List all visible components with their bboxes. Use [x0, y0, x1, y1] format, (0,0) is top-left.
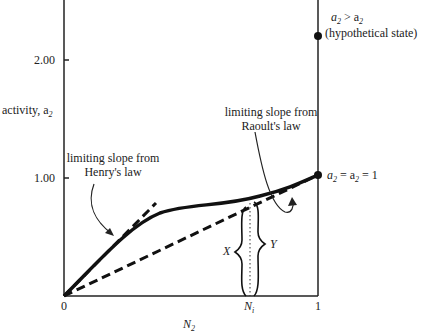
tick-label-ni-sub: i: [252, 306, 254, 315]
standard-state-point: [314, 171, 322, 179]
henry-arrow: [91, 184, 112, 234]
raoult-arrow: [255, 132, 293, 212]
brace-y-label: Y: [270, 237, 277, 251]
raoult-annotation: limiting slope from Raoult's law: [222, 105, 320, 133]
henry-annotation-line1: limiting slope from: [64, 151, 162, 165]
henry-annotation-line2: Henry's law: [64, 165, 162, 179]
y-axis-label-sub: 2: [49, 110, 53, 119]
brace-y: [254, 202, 265, 296]
raoult-annotation-line2: Raoult's law: [222, 119, 320, 133]
hypothetical-state-point: [314, 32, 322, 40]
tick-label-y1: 1.00: [34, 171, 55, 185]
std-eq: = a: [337, 168, 355, 182]
x-axis-label-sub: 2: [191, 324, 195, 331]
tick-label-ni: Ni: [244, 299, 254, 318]
tick-label-y2: 2.00: [34, 53, 55, 67]
brace-x: [235, 207, 246, 296]
hypothetical-state-label: (hypothetical state): [325, 26, 417, 40]
hyp-gt: > a: [341, 10, 359, 24]
tick-label-ni-text: N: [244, 299, 252, 313]
y-axis-label-text: activity, a: [2, 103, 49, 117]
tick-label-0: 0: [61, 299, 67, 313]
standard-state-label: a2 = a2 = 1: [327, 168, 378, 187]
x-axis-label-text: N: [183, 317, 191, 331]
brace-x-label: X: [223, 244, 230, 258]
std-end: = 1: [359, 168, 378, 182]
raoult-slope-line: [64, 175, 318, 296]
x-axis-label: N2: [183, 317, 195, 331]
tick-label-1: 1: [315, 299, 321, 313]
raoult-annotation-line1: limiting slope from: [222, 105, 320, 119]
y-axis-label: activity, a2: [2, 103, 53, 122]
henry-annotation: limiting slope from Henry's law: [64, 151, 162, 179]
raoult-arrowhead-icon: [288, 197, 297, 206]
